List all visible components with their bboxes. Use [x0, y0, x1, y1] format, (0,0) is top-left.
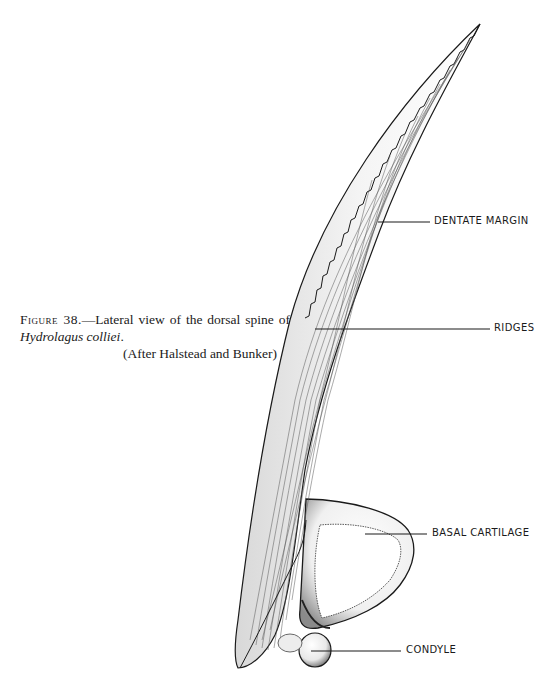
figure-number: Figure 38.	[20, 312, 82, 327]
caption-text: —Lateral view of the dorsal spine of	[82, 312, 290, 327]
figure-caption: Figure 38.—Lateral view of the dorsal sp…	[20, 311, 290, 362]
species-name: Hydrolagus colliei	[20, 329, 120, 344]
label-dentate-margin: DENTATE MARGIN	[434, 215, 529, 226]
label-ridges: RIDGES	[494, 322, 534, 333]
condyle	[278, 633, 331, 667]
label-condyle: CONDYLE	[406, 644, 456, 655]
label-basal-cartilage: BASAL CARTILAGE	[432, 527, 529, 538]
caption-period: .	[120, 329, 123, 344]
basal-cartilage	[300, 499, 414, 628]
figure-credit: (After Halstead and Bunker)	[20, 345, 290, 362]
